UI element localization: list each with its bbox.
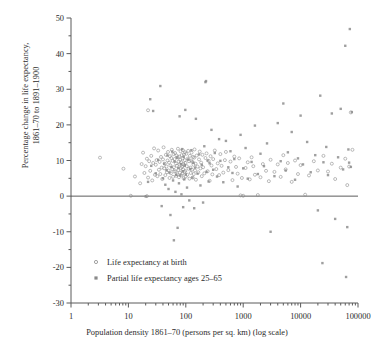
data-point	[239, 134, 241, 136]
data-point	[196, 172, 198, 174]
data-point	[346, 226, 348, 228]
data-point	[344, 157, 347, 160]
data-point	[194, 166, 196, 168]
legend-marker-1	[94, 260, 97, 263]
legend-label-2: Partial life expectancy ages 25–65	[107, 274, 222, 283]
data-point	[220, 164, 223, 167]
data-point	[174, 191, 176, 193]
data-point	[319, 94, 321, 96]
data-point	[190, 151, 193, 154]
data-point	[231, 179, 234, 182]
data-point	[215, 168, 218, 171]
data-point	[244, 166, 247, 169]
y-tick-label: 20	[56, 121, 64, 130]
data-point	[339, 166, 342, 169]
data-point	[334, 178, 337, 181]
data-point	[344, 45, 346, 47]
data-point	[191, 176, 193, 178]
data-point	[139, 182, 142, 185]
data-point	[246, 161, 249, 164]
data-point	[169, 214, 171, 216]
data-point	[282, 154, 285, 157]
x-tick-label: 10000	[290, 312, 311, 321]
data-point	[194, 169, 197, 172]
data-point	[196, 165, 199, 168]
data-point	[286, 161, 289, 164]
y-tick-label: -30	[53, 299, 64, 308]
data-point	[231, 172, 233, 174]
data-point	[229, 160, 232, 163]
data-point	[235, 165, 238, 168]
data-point	[150, 165, 152, 167]
data-point	[180, 163, 182, 165]
x-tick-label: 10	[124, 312, 132, 321]
data-point	[216, 175, 218, 177]
data-point	[345, 276, 347, 278]
data-point	[167, 188, 169, 190]
data-point	[150, 154, 153, 157]
data-point	[244, 147, 246, 149]
data-point	[156, 175, 159, 178]
data-point	[199, 184, 201, 186]
data-point	[147, 181, 149, 183]
data-point	[310, 171, 312, 173]
data-point	[227, 166, 229, 168]
data-point	[144, 165, 147, 168]
data-point	[195, 118, 197, 120]
data-point	[172, 179, 174, 181]
data-point	[259, 153, 261, 155]
y-tick-label: -20	[53, 263, 64, 272]
x-tick-label: 1	[69, 312, 73, 321]
data-point	[273, 170, 276, 173]
data-point	[219, 153, 222, 156]
data-point	[155, 172, 157, 174]
data-point	[157, 168, 160, 171]
data-point	[312, 160, 315, 163]
data-point	[193, 207, 195, 209]
data-point	[122, 167, 125, 170]
data-point	[222, 181, 224, 183]
data-point	[257, 173, 259, 175]
data-point	[208, 162, 210, 164]
y-tick-label: 40	[56, 50, 64, 59]
data-point	[205, 171, 207, 173]
data-point	[296, 173, 299, 176]
data-point	[269, 231, 271, 233]
series-1-points	[99, 109, 354, 198]
data-point	[299, 164, 302, 167]
data-point	[176, 156, 178, 158]
data-point	[159, 85, 161, 87]
plot-canvas: -30-20-100102030405011010010001000010000…	[0, 0, 374, 350]
data-point	[306, 141, 308, 143]
data-point	[164, 174, 167, 177]
data-point	[183, 156, 185, 158]
data-point	[195, 154, 198, 157]
data-point	[247, 177, 249, 179]
data-point	[202, 166, 205, 169]
data-point	[163, 163, 165, 165]
data-point	[140, 163, 143, 166]
legend-label-1: Life expectancy at birth	[107, 258, 188, 267]
data-point	[229, 150, 231, 152]
data-point	[157, 159, 159, 161]
data-point	[347, 148, 349, 150]
data-point	[340, 108, 342, 110]
data-point	[307, 174, 310, 177]
data-point	[188, 199, 190, 201]
data-point	[223, 159, 226, 162]
x-tick-label: 100	[180, 312, 193, 321]
data-point	[182, 206, 184, 208]
data-point	[218, 138, 220, 140]
data-point	[202, 201, 204, 203]
data-point	[277, 122, 279, 124]
data-point	[265, 169, 268, 172]
data-point	[178, 182, 180, 184]
data-point	[206, 159, 208, 161]
data-point	[145, 157, 148, 160]
data-point	[266, 142, 268, 144]
data-point	[183, 178, 185, 180]
x-tick-label: 100000	[345, 312, 370, 321]
data-point	[176, 147, 179, 150]
data-point	[250, 156, 253, 159]
data-point	[279, 175, 282, 178]
